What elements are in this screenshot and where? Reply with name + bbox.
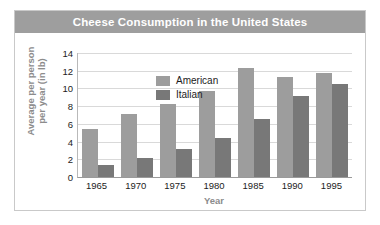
y-tick-label: 8 <box>68 101 73 112</box>
bar-group <box>118 53 155 177</box>
bar-american-1995 <box>316 73 332 178</box>
bar-american-1975 <box>160 104 176 177</box>
bar-italian-1990 <box>293 96 309 177</box>
x-tick-label: 1975 <box>157 180 194 194</box>
chart-figure: Cheese Consumption in the United States … <box>14 10 366 211</box>
x-tick-label: 1965 <box>78 180 115 194</box>
bar-italian-1985 <box>254 119 270 177</box>
y-tick-label: 12 <box>62 65 73 76</box>
y-axis-title: Average per person per year (in lb) <box>22 31 50 151</box>
bar-group <box>236 53 273 177</box>
chart-title-band: Cheese Consumption in the United States <box>15 11 365 33</box>
bar-american-1985 <box>238 68 254 177</box>
chart-plate: Average per person per year (in lb) 0 2 … <box>15 33 365 210</box>
y-tick-label: 10 <box>62 83 73 94</box>
legend-label: American <box>176 75 218 86</box>
x-tick-label: 1980 <box>196 180 233 194</box>
y-tick-label: 14 <box>62 48 73 59</box>
legend-item-italian: Italian <box>156 89 218 100</box>
bar-italian-1995 <box>332 84 348 177</box>
y-tick-label: 2 <box>68 154 73 165</box>
legend-swatch-icon <box>156 90 170 100</box>
y-tick-label: 4 <box>68 136 73 147</box>
bar-italian-1965 <box>98 165 114 177</box>
page-title: Cheese Consumption in the United States <box>73 16 308 28</box>
bar-group <box>275 53 312 177</box>
bar-italian-1970 <box>137 158 153 177</box>
plot-area: American Italian <box>77 53 352 178</box>
legend-label: Italian <box>176 89 203 100</box>
bar-american-1980 <box>199 91 215 177</box>
bar-italian-1980 <box>215 138 231 177</box>
x-tick-label: 1990 <box>274 180 311 194</box>
x-axis-tick-labels: 1965 1970 1975 1980 1985 1990 1995 <box>77 180 351 194</box>
bar-italian-1975 <box>176 149 192 177</box>
y-tick-label: 0 <box>68 172 73 183</box>
y-axis-tick-labels: 0 2 4 6 8 10 12 14 <box>55 53 73 177</box>
bar-group <box>197 53 234 177</box>
y-tick-label: 6 <box>68 118 73 129</box>
bar-group <box>314 53 351 177</box>
bar-american-1965 <box>82 129 98 177</box>
legend-item-american: American <box>156 75 218 86</box>
x-tick-label: 1985 <box>235 180 272 194</box>
x-tick-label: 1995 <box>313 180 350 194</box>
y-axis-title-line-1: Average per person <box>25 47 36 136</box>
legend-swatch-icon <box>156 76 170 86</box>
x-tick-label: 1970 <box>117 180 154 194</box>
bar-american-1970 <box>121 114 137 177</box>
y-axis-title-line-2: per year (in lb) <box>36 58 47 123</box>
bar-groups <box>78 53 352 177</box>
bar-american-1990 <box>277 77 293 177</box>
chart-legend: American Italian <box>156 75 218 100</box>
x-axis-title: Year <box>77 195 351 206</box>
bar-group <box>79 53 116 177</box>
bar-group <box>158 53 195 177</box>
